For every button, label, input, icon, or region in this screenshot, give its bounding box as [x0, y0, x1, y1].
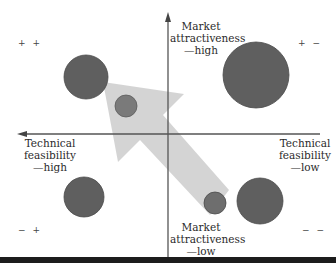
axis-label-left: Technical feasibility —high [22, 137, 78, 173]
circle-small-top-left [115, 95, 137, 117]
axis-label-right: Technical feasibility —low [276, 137, 334, 173]
circle-small-bottom-right [204, 192, 226, 214]
quadrant-marker-top-left: + + [18, 38, 42, 48]
quadrant-marker-top-right: + − [298, 38, 322, 48]
axis-label-top: Market attractiveness —high [170, 20, 232, 56]
circle-large-top-right [223, 42, 289, 108]
market-technical-matrix-diagram: Market attractiveness —high Market attra… [0, 0, 336, 271]
circle-bottom-left [64, 177, 104, 217]
quadrant-marker-bottom-left: − + [18, 225, 42, 235]
quadrant-marker-bottom-right: − − [302, 225, 326, 235]
bottom-border-band [0, 257, 336, 263]
diagram-canvas [0, 0, 336, 271]
circle-large-bottom-right [237, 178, 283, 224]
axis-label-bottom: Market attractiveness —low [170, 221, 232, 257]
circle-large-top-left [64, 55, 108, 99]
